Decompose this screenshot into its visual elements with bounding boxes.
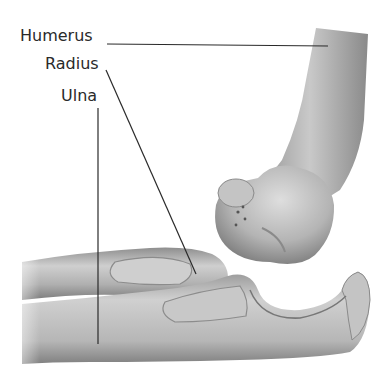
label-radius: Radius <box>45 56 99 72</box>
label-ulna: Ulna <box>61 88 97 104</box>
humerus-capitulum <box>218 179 254 207</box>
elbow-anatomy-diagram: Humerus Radius Ulna <box>0 0 385 384</box>
humerus-leader-line <box>107 44 328 46</box>
radius-leader-line <box>106 70 196 274</box>
label-humerus: Humerus <box>20 28 93 44</box>
